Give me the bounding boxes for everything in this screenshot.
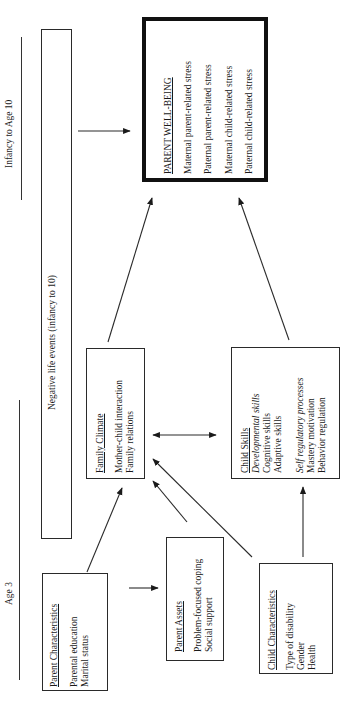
arrow-child-skills-to-pwb (239, 198, 289, 340)
conceptual-model-diagram: Infancy to Age 10 Age 3 Negative life ev… (0, 0, 351, 708)
arrows-layer (0, 0, 351, 708)
arrow-child-characteristics-to-family-climate (153, 459, 252, 557)
arrow-parent-characteristics-to-family-climate (87, 488, 122, 572)
arrow-family-climate-to-pwb (108, 198, 152, 342)
